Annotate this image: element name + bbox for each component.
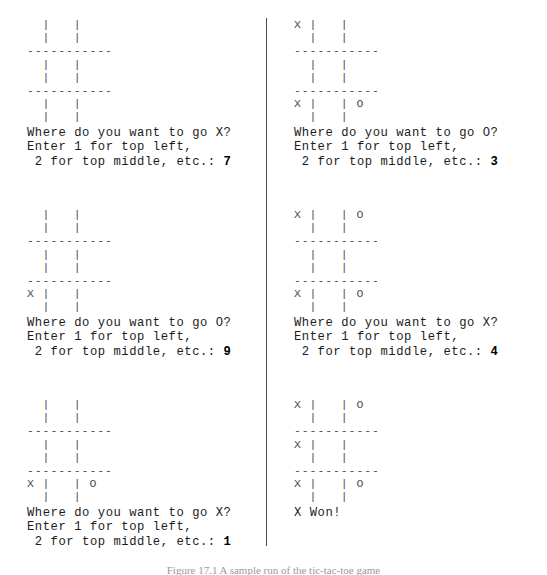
tic-tac-toe-board: | | | | ----------- | | | | ----------- … xyxy=(0,18,266,124)
prompt-line-3: 2 for top middle, etc.: xyxy=(27,155,224,169)
prompt-line-1: Where do you want to go X? xyxy=(27,506,231,520)
session-block: X | | O | | ----------- X | | | | ------… xyxy=(267,398,533,520)
prompt-line-3: 2 for top middle, etc.: xyxy=(294,155,491,169)
user-answer: 1 xyxy=(224,535,232,549)
tic-tac-toe-board: | | | | ----------- | | | | ----------- … xyxy=(0,398,266,504)
prompt-line-1: Where do you want to go O? xyxy=(27,316,231,330)
user-answer: 3 xyxy=(491,155,499,169)
prompt-line-1: Where do you want to go X? xyxy=(294,316,498,330)
tic-tac-toe-board: X | | O | | ----------- | | | | --------… xyxy=(267,208,533,314)
user-answer: 7 xyxy=(224,155,232,169)
tic-tac-toe-board: | | | | ----------- | | | | ----------- … xyxy=(0,208,266,314)
tic-tac-toe-figure: | | | | ----------- | | | | ----------- … xyxy=(0,0,547,575)
user-answer: 4 xyxy=(491,345,499,359)
prompt-line-2: Enter 1 for top left, xyxy=(27,330,192,344)
session-block: | | | | ----------- | | | | ----------- … xyxy=(0,398,266,549)
prompt-line-3: 2 for top middle, etc.: xyxy=(27,535,224,549)
user-answer: 9 xyxy=(224,345,232,359)
prompt-line-2: Enter 1 for top left, xyxy=(294,140,459,154)
prompt-line-3: 2 for top middle, etc.: xyxy=(27,345,224,359)
game-result: X Won! xyxy=(267,504,533,521)
tic-tac-toe-board: X | | | | ----------- | | | | ----------… xyxy=(267,18,533,124)
prompt-line-1: Where do you want to go O? xyxy=(294,126,498,140)
session-block: X | | | | ----------- | | | | ----------… xyxy=(267,18,533,169)
prompt-line-3: 2 for top middle, etc.: xyxy=(294,345,491,359)
console-prompt: Where do you want to go X? Enter 1 for t… xyxy=(0,504,266,550)
figure-caption: Figure 17.1 A sample run of the tic-tac-… xyxy=(0,564,547,575)
session-block: | | | | ----------- | | | | ----------- … xyxy=(0,208,266,359)
left-column: | | | | ----------- | | | | ----------- … xyxy=(0,0,266,575)
console-prompt: Where do you want to go O? Enter 1 for t… xyxy=(267,124,533,170)
tic-tac-toe-board: X | | O | | ----------- X | | | | ------… xyxy=(267,398,533,504)
right-column: X | | | | ----------- | | | | ----------… xyxy=(267,0,533,575)
prompt-line-1: Where do you want to go X? xyxy=(27,126,231,140)
console-prompt: Where do you want to go O? Enter 1 for t… xyxy=(0,314,266,360)
session-block: X | | O | | ----------- | | | | --------… xyxy=(267,208,533,359)
prompt-line-2: Enter 1 for top left, xyxy=(27,140,192,154)
prompt-line-2: Enter 1 for top left, xyxy=(27,520,192,534)
session-block: | | | | ----------- | | | | ----------- … xyxy=(0,18,266,169)
console-prompt: Where do you want to go X? Enter 1 for t… xyxy=(267,314,533,360)
console-prompt: Where do you want to go X? Enter 1 for t… xyxy=(0,124,266,170)
prompt-line-2: Enter 1 for top left, xyxy=(294,330,459,344)
